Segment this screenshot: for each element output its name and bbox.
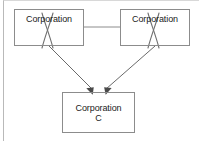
- node-label-corporation-b: Corporation: [120, 14, 190, 24]
- node-label-corporation-c: Corporation C: [62, 103, 135, 123]
- node-label-corporation-a: Corporation: [14, 14, 84, 24]
- arrow-b-c-line: [106, 46, 155, 89]
- diagram-canvas: Corporation Corporation Corporation C: [0, 0, 199, 141]
- arrow-a-c-line: [49, 46, 92, 89]
